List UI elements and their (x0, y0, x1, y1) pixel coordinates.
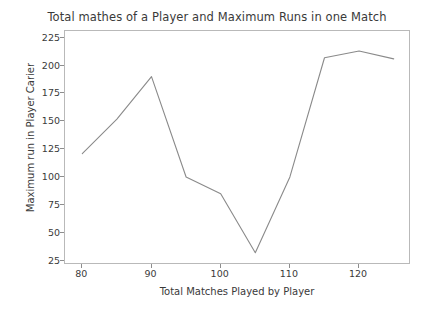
line-series-svg (65, 31, 411, 265)
data-line-maximum-runs (82, 51, 393, 253)
y-axis-tick-label: 75 (20, 198, 60, 209)
plot-area (64, 30, 410, 264)
y-axis-tick-label: 150 (20, 115, 60, 126)
x-axis-tick-label: 90 (131, 268, 171, 279)
y-axis-tick-label: 175 (20, 87, 60, 98)
chart-figure: Total mathes of a Player and Maximum Run… (0, 0, 434, 309)
y-axis-tick-label: 25 (20, 254, 60, 265)
x-axis-tick-label: 80 (61, 268, 101, 279)
y-axis-tick-label: 125 (20, 143, 60, 154)
x-axis-tick-label: 110 (269, 268, 309, 279)
x-axis-label: Total Matches Played by Player (64, 286, 410, 297)
x-axis-tick-label: 120 (338, 268, 378, 279)
x-axis-tick-label: 100 (200, 268, 240, 279)
chart-title: Total mathes of a Player and Maximum Run… (0, 10, 434, 24)
y-axis-tick-label: 200 (20, 59, 60, 70)
y-axis-tick-label: 50 (20, 226, 60, 237)
y-axis-tick-label: 225 (20, 31, 60, 42)
y-axis-tick-labels: 225200175150125100755025 (14, 0, 60, 309)
y-axis-tick-label: 100 (20, 170, 60, 181)
